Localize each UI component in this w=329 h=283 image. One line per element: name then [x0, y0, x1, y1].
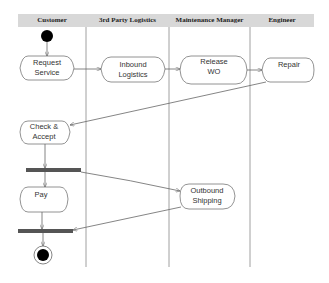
svg-text:Shipping: Shipping — [192, 196, 221, 205]
activity-diagram: Request Service Inbound Logistics Releas… — [0, 0, 329, 283]
svg-text:Inbound: Inbound — [119, 60, 146, 69]
svg-text:Service: Service — [34, 68, 59, 77]
svg-text:Accept: Accept — [33, 132, 57, 141]
svg-text:Logistics: Logistics — [118, 70, 147, 79]
svg-text:Outbound: Outbound — [191, 186, 224, 195]
svg-text:Pay: Pay — [35, 190, 48, 199]
svg-text:Repair: Repair — [278, 60, 301, 69]
svg-text:Request: Request — [33, 58, 62, 67]
end-node-inner — [37, 249, 49, 261]
fork-bar — [26, 168, 81, 172]
svg-text:Release: Release — [200, 57, 228, 66]
svg-text:WO: WO — [208, 67, 221, 76]
start-node — [41, 30, 53, 42]
join-bar — [18, 229, 73, 233]
svg-text:Check &: Check & — [30, 122, 58, 131]
